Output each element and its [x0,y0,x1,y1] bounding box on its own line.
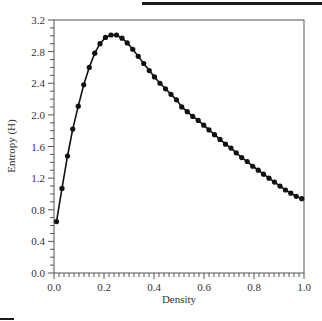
data-point [256,168,261,173]
plot-frame [54,20,304,273]
data-point [283,187,288,192]
data-point [92,51,97,56]
entropy-line [57,35,302,222]
x-tick-label: 1.0 [297,281,311,293]
data-point [266,176,271,181]
data-point [119,36,124,41]
data-point [174,97,179,102]
data-point [114,32,119,37]
data-point [147,68,152,73]
data-point [212,132,217,137]
data-point [168,92,173,97]
data-point [152,74,157,79]
y-tick-label: 0.0 [31,267,45,279]
data-point [157,81,162,86]
data-point [196,118,201,123]
data-point [234,150,239,155]
y-axis-tick-labels: 0.00.40.81.21.62.02.42.83.2 [31,14,45,279]
x-tick-label: 0.2 [97,281,111,293]
data-point [217,137,222,142]
x-tick-label: 0.0 [47,281,61,293]
data-point [261,172,266,177]
x-tick-label: 0.6 [197,281,211,293]
y-tick-label: 2.4 [31,77,45,89]
y-axis-label: Entropy (H) [5,119,18,173]
data-point [223,142,228,147]
data-point [65,153,70,158]
data-point [206,127,211,132]
data-point [103,35,108,40]
x-axis-tick-labels: 0.00.20.40.60.81.0 [47,281,311,293]
y-tick-label: 1.6 [31,141,45,153]
data-point [125,40,130,45]
y-tick-label: 2.0 [31,109,45,121]
x-axis-label: Density [162,293,197,305]
y-tick-label: 2.8 [31,46,45,58]
x-axis-ticks [54,273,304,279]
data-point [228,145,233,150]
x-tick-label: 0.8 [247,281,261,293]
data-point [277,183,282,188]
data-point [54,219,59,224]
data-point [141,61,146,66]
data-point [190,114,195,119]
data-point [245,159,250,164]
data-point [76,104,81,109]
data-point [130,47,135,52]
data-point [81,82,86,87]
data-point [201,123,206,128]
data-point [59,186,64,191]
data-point [87,65,92,70]
data-point [136,54,141,59]
y-tick-label: 3.2 [31,14,45,26]
data-point [272,179,277,184]
data-point [288,191,293,196]
data-point [299,196,304,201]
data-point [294,194,299,199]
data-point [70,127,75,132]
x-tick-label: 0.4 [147,281,161,293]
data-point [108,32,113,37]
data-point [163,86,168,91]
entropy-density-chart: 0.00.20.40.60.81.0 0.00.40.81.21.62.02.4… [0,0,322,321]
data-point [239,155,244,160]
data-point [250,164,255,169]
y-tick-label: 0.4 [31,235,45,247]
data-point [97,41,102,46]
y-tick-label: 0.8 [31,204,45,216]
y-tick-label: 1.2 [31,172,45,184]
y-axis-ticks [48,20,54,273]
data-point [185,109,190,114]
data-point [179,104,184,109]
